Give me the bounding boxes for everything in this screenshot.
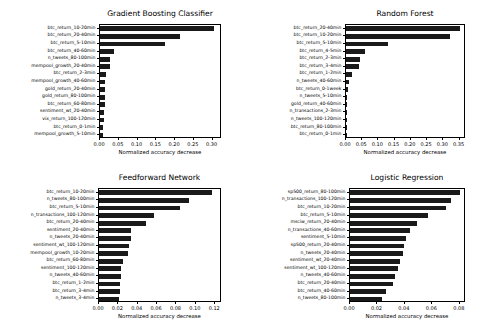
y-tick-mark bbox=[96, 283, 98, 284]
y-tick-mark bbox=[97, 28, 99, 29]
y-axis-tick-label: n_transactions_40-60min bbox=[243, 228, 346, 233]
bar bbox=[350, 251, 403, 256]
y-axis-tick-label: mempool_growth_40-60min bbox=[0, 79, 96, 84]
chart-panel-logistic-regression: Logistic Regressionsp500_return_80-100mi… bbox=[243, 164, 486, 328]
bar bbox=[99, 206, 180, 211]
bar bbox=[100, 125, 103, 130]
y-axis-tick-label: mempool_growth_5-10min bbox=[0, 132, 96, 137]
x-axis-tick-label: 0.12 bbox=[209, 306, 220, 311]
y-axis-tick-label: btc_return_20-40min bbox=[0, 220, 95, 225]
bar bbox=[99, 198, 189, 203]
x-axis-title: Normalized accuracy decrease bbox=[99, 149, 221, 155]
y-axis-tick-label: n_transactions_100-120min bbox=[0, 212, 95, 217]
y-axis-tick-label: sp500_return_20-40min bbox=[243, 243, 346, 248]
y-axis-tick-label: sentiment_20-40min bbox=[0, 228, 95, 233]
bars-container bbox=[99, 189, 220, 301]
x-axis-tick-label: 0.05 bbox=[356, 142, 367, 147]
y-tick-mark bbox=[96, 291, 98, 292]
bar bbox=[346, 95, 347, 100]
y-tick-mark bbox=[347, 230, 349, 231]
x-axis-tick-label: 0.20 bbox=[404, 142, 415, 147]
bar bbox=[346, 34, 450, 39]
y-tick-mark bbox=[343, 66, 345, 67]
y-axis-tick-label: sentiment_5-10min bbox=[243, 235, 346, 240]
x-axis-tick-label: 0.30 bbox=[437, 142, 448, 147]
y-tick-mark bbox=[97, 81, 99, 82]
y-tick-mark bbox=[97, 43, 99, 44]
x-axis-tick-label: 0.04 bbox=[398, 306, 409, 311]
plot-area-feedforward-network bbox=[98, 188, 221, 302]
bar bbox=[350, 221, 417, 226]
bar bbox=[100, 87, 105, 92]
y-tick-mark bbox=[96, 260, 98, 261]
y-tick-mark bbox=[343, 111, 345, 112]
y-tick-mark bbox=[97, 134, 99, 135]
y-axis-tick-label: btc_return_10-20min bbox=[243, 205, 346, 210]
y-axis-tick-label: btc_return_10-20min bbox=[0, 190, 95, 195]
x-axis-tick-label: 0.04 bbox=[131, 306, 142, 311]
y-axis-tick-label: btc_return_1-2min bbox=[243, 71, 342, 76]
bar bbox=[350, 289, 386, 294]
x-axis-tick-label: 0.25 bbox=[187, 142, 198, 147]
x-axis-tick-label: 0.06 bbox=[426, 306, 437, 311]
y-tick-mark bbox=[97, 119, 99, 120]
bar bbox=[100, 49, 114, 54]
y-tick-mark bbox=[96, 192, 98, 193]
bar bbox=[100, 42, 165, 47]
bar bbox=[100, 64, 110, 69]
bar bbox=[346, 49, 365, 54]
bar bbox=[346, 102, 347, 107]
bar bbox=[346, 125, 347, 130]
bar bbox=[350, 190, 460, 195]
bar bbox=[350, 274, 395, 279]
y-axis-tick-label: sentiment_100-120min bbox=[0, 266, 95, 271]
bar bbox=[350, 282, 393, 287]
plot-area-logistic-regression bbox=[349, 188, 465, 302]
chart-title-gradient-boosting: Gradient Boosting Classifier bbox=[107, 9, 213, 18]
y-tick-mark bbox=[97, 35, 99, 36]
x-axis-title: Normalized accuracy decrease bbox=[349, 313, 465, 319]
y-axis-tick-label: n_transactions_100-120min bbox=[243, 197, 346, 202]
x-axis-tick-label: 0.00 bbox=[93, 142, 104, 147]
bar bbox=[99, 190, 212, 195]
bars-container bbox=[346, 25, 464, 137]
y-tick-mark bbox=[347, 268, 349, 269]
y-axis-tick-label: btc_return_0-1week bbox=[243, 86, 342, 91]
plot-area-random-forest bbox=[345, 24, 465, 138]
bar bbox=[99, 259, 123, 264]
x-axis-tick-label: 0.00 bbox=[339, 142, 350, 147]
y-tick-mark bbox=[96, 230, 98, 231]
y-axis-tick-label: btc_return_40-60min bbox=[243, 288, 346, 293]
bar bbox=[350, 206, 446, 211]
chart-panel-random-forest: Random Forestbtc_return_20-40minbtc_retu… bbox=[243, 0, 486, 164]
y-tick-mark bbox=[96, 222, 98, 223]
x-axis-tick-label: 0.10 bbox=[372, 142, 383, 147]
bar bbox=[100, 57, 110, 62]
bar bbox=[346, 64, 359, 69]
bar bbox=[346, 118, 347, 123]
bar bbox=[100, 72, 106, 77]
y-axis-tick-label: mempool_growth_20-40min bbox=[0, 64, 96, 69]
y-tick-mark bbox=[343, 43, 345, 44]
y-tick-mark bbox=[347, 298, 349, 299]
y-axis-tick-label: gold_return_40-60min bbox=[243, 102, 342, 107]
y-tick-mark bbox=[347, 283, 349, 284]
bar bbox=[100, 26, 214, 31]
y-axis-tick-label: btc_return_5-10min bbox=[243, 212, 346, 217]
y-axis-tick-label: n_tweets_40-60min bbox=[0, 273, 95, 278]
y-axis-tick-label: msciw_return_20-40min bbox=[243, 220, 346, 225]
y-tick-mark bbox=[97, 127, 99, 128]
y-axis-tick-label: n_transactions_2-3min bbox=[243, 109, 342, 114]
chart-title-logistic-regression: Logistic Regression bbox=[371, 173, 444, 182]
bar bbox=[346, 110, 347, 115]
x-axis-title: Normalized accuracy decrease bbox=[98, 313, 221, 319]
bar bbox=[350, 198, 451, 203]
y-tick-mark bbox=[347, 253, 349, 254]
y-tick-mark bbox=[343, 89, 345, 90]
y-axis-tick-label: btc_return_20-40min bbox=[0, 33, 96, 38]
y-axis-tick-label: sentiment_wt_100-120min bbox=[0, 243, 95, 248]
y-tick-mark bbox=[97, 66, 99, 67]
x-axis-tick-label: 0.08 bbox=[170, 306, 181, 311]
y-axis-tick-label: n_tweets_20-40min bbox=[243, 250, 346, 255]
y-tick-mark bbox=[343, 58, 345, 59]
